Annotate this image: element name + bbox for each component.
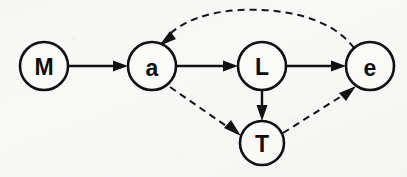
node-L-label: L	[255, 54, 269, 80]
edge-a-to-T	[170, 87, 241, 136]
edge-T-to-e-line	[283, 92, 348, 133]
node-L[interactable]: L	[238, 42, 286, 90]
node-e-label: e	[364, 55, 377, 81]
directed-graph: M a L e T	[0, 0, 407, 177]
node-M[interactable]: M	[20, 42, 68, 90]
node-T-label: T	[255, 131, 269, 157]
edge-a-to-L-arrowhead	[223, 61, 238, 72]
edge-L-to-e	[286, 61, 346, 72]
edge-a-to-L	[176, 61, 238, 72]
node-e[interactable]: e	[346, 42, 394, 90]
node-M-label: M	[34, 54, 53, 80]
diagram-canvas: M a L e T	[0, 0, 407, 177]
edge-a-to-T-arrowhead	[224, 120, 241, 136]
edge-M-to-a-arrowhead	[113, 61, 128, 72]
edge-L-to-T-arrowhead	[257, 105, 268, 121]
node-a[interactable]: a	[128, 42, 176, 90]
edge-a-to-T-line	[170, 87, 232, 130]
edge-M-to-a	[68, 61, 128, 72]
node-T[interactable]: T	[240, 121, 284, 165]
edge-T-to-e-arrowhead	[339, 86, 356, 101]
node-a-label: a	[146, 55, 159, 81]
edge-T-to-e	[283, 86, 356, 133]
edge-L-to-e-arrowhead	[331, 61, 346, 72]
edge-L-to-T	[257, 90, 268, 121]
